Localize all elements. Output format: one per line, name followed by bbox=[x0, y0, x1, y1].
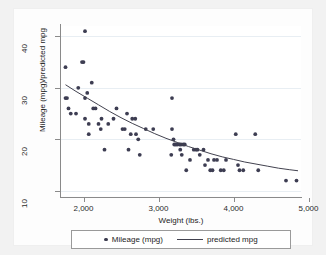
legend-label-predicted: predicted mpg bbox=[207, 235, 258, 244]
data-point bbox=[123, 127, 127, 131]
data-point bbox=[211, 168, 215, 172]
data-point bbox=[134, 132, 138, 136]
data-point bbox=[180, 153, 184, 157]
data-point bbox=[87, 132, 91, 136]
data-point bbox=[222, 168, 226, 172]
data-point bbox=[253, 132, 257, 136]
data-point bbox=[170, 127, 174, 131]
data-point bbox=[115, 107, 119, 111]
graph-card: 102030402,0003,0004,0005,000 Mileage (mp… bbox=[14, 9, 312, 245]
x-axis-title: Weight (lbs.) bbox=[61, 216, 301, 226]
data-point bbox=[103, 148, 107, 152]
data-point bbox=[67, 107, 71, 111]
chart-legend: Mileage (mpg) predicted mpg bbox=[71, 230, 291, 249]
data-point bbox=[138, 153, 142, 157]
data-point bbox=[169, 153, 173, 157]
data-point bbox=[125, 112, 129, 116]
data-point bbox=[87, 122, 91, 126]
data-point bbox=[136, 137, 140, 141]
data-point bbox=[178, 148, 182, 152]
data-point bbox=[65, 96, 69, 100]
data-point bbox=[295, 179, 299, 183]
data-point bbox=[112, 117, 116, 121]
y-tick bbox=[55, 191, 60, 192]
x-tick bbox=[159, 198, 160, 202]
data-point bbox=[82, 60, 86, 64]
x-tick-label: 4,000 bbox=[214, 204, 254, 213]
data-point bbox=[94, 107, 98, 111]
data-point bbox=[215, 158, 219, 162]
data-point bbox=[206, 158, 210, 162]
y-tick-label: 10 bbox=[20, 190, 29, 216]
data-point bbox=[188, 158, 192, 162]
y-tick bbox=[55, 36, 60, 37]
data-point bbox=[106, 122, 110, 126]
x-tick-label: 2,000 bbox=[64, 204, 104, 213]
y-tick-label: 40 bbox=[20, 36, 29, 62]
legend-entry-mileage: Mileage (mpg) bbox=[104, 235, 163, 244]
legend-label-mileage: Mileage (mpg) bbox=[112, 235, 163, 244]
data-point bbox=[241, 168, 245, 172]
marker-dot-icon bbox=[104, 238, 108, 242]
x-tick bbox=[84, 198, 85, 202]
chart-figure: 102030402,0003,0004,0005,000 Mileage (mp… bbox=[0, 0, 326, 255]
data-point bbox=[170, 96, 174, 100]
y-tick-label: 30 bbox=[20, 87, 29, 113]
data-point bbox=[198, 153, 202, 157]
data-point bbox=[83, 29, 87, 33]
data-point bbox=[127, 148, 131, 152]
data-point bbox=[203, 163, 207, 167]
y-tick bbox=[55, 139, 60, 140]
data-point bbox=[129, 132, 133, 136]
data-point bbox=[224, 158, 228, 162]
y-axis-title: Mileage (mpg)/predicted mpg bbox=[38, 5, 48, 155]
data-point bbox=[97, 122, 101, 126]
line-segment-icon bbox=[177, 239, 203, 240]
data-point bbox=[284, 179, 288, 183]
data-point bbox=[64, 65, 68, 69]
data-point bbox=[74, 112, 78, 116]
x-tick bbox=[309, 198, 310, 202]
data-point bbox=[184, 168, 188, 172]
y-tick-label: 20 bbox=[20, 139, 29, 165]
x-tick-label: 3,000 bbox=[139, 204, 179, 213]
data-point bbox=[256, 168, 260, 172]
data-point bbox=[90, 81, 94, 85]
data-point bbox=[99, 127, 103, 131]
data-point bbox=[236, 163, 240, 167]
data-point bbox=[151, 127, 155, 131]
y-tick bbox=[55, 88, 60, 89]
data-point bbox=[234, 132, 238, 136]
data-point bbox=[76, 86, 80, 90]
data-point bbox=[85, 91, 89, 95]
x-tick bbox=[234, 198, 235, 202]
data-point bbox=[100, 117, 104, 121]
data-point bbox=[133, 117, 137, 121]
data-point bbox=[69, 112, 73, 116]
x-tick-label: 5,000 bbox=[289, 204, 326, 213]
legend-entry-predicted: predicted mpg bbox=[177, 235, 258, 244]
data-point bbox=[83, 117, 87, 121]
data-point bbox=[238, 168, 242, 172]
